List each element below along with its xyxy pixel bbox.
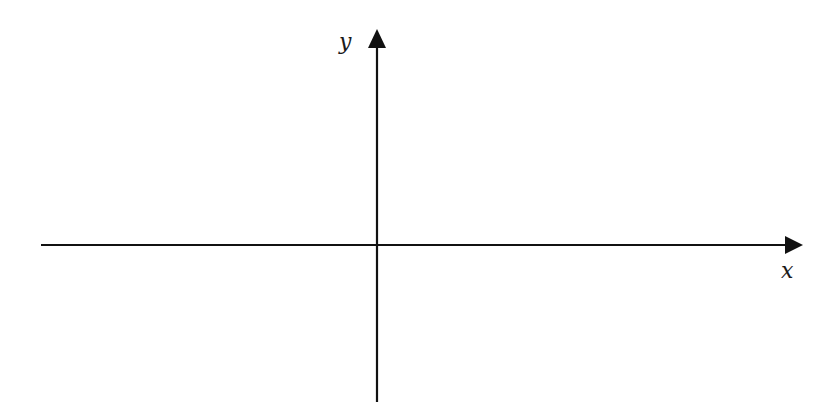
coordinate-axes-diagram: x y — [0, 0, 833, 414]
x-axis: x — [41, 236, 803, 283]
y-axis-arrowhead-icon — [368, 29, 386, 48]
y-axis-label: y — [338, 29, 352, 54]
x-axis-arrowhead-icon — [785, 236, 803, 254]
y-axis: y — [338, 29, 386, 402]
x-axis-label: x — [781, 258, 794, 283]
